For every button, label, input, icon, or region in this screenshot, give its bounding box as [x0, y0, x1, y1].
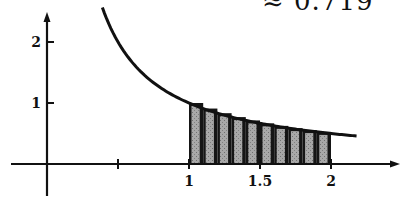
rectangle-fill [277, 129, 285, 163]
rectangle-fill [263, 126, 271, 163]
rectangle-fill [248, 123, 256, 163]
y-tick-label: 1 [31, 95, 41, 111]
x-axis-arrow-icon [390, 161, 400, 168]
rectangle-fill [206, 112, 214, 163]
rectangle-fill [291, 131, 299, 163]
rectangle-fill [234, 120, 242, 163]
y-tick-label: 2 [31, 34, 41, 50]
x-tick-label: 2 [326, 173, 336, 189]
rectangle-fill [192, 106, 200, 163]
x-tick-label: 1.5 [248, 173, 272, 189]
riemann-sum-chart: 11.5212 [0, 0, 401, 198]
rectangle-fill [305, 133, 313, 163]
function-curve [102, 8, 356, 136]
rectangle-fill [220, 116, 228, 163]
y-axis-arrow-icon [44, 12, 51, 22]
x-tick-label: 1 [184, 173, 194, 189]
rectangle-fill [319, 135, 327, 163]
axis-ticks: 11.5212 [31, 34, 336, 189]
